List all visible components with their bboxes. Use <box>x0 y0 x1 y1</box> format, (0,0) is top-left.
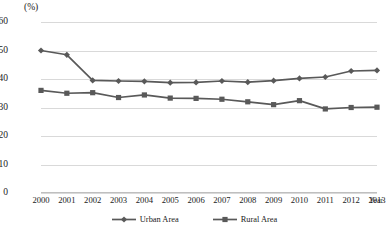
gridline-0 <box>41 193 377 194</box>
series-urban-area <box>38 47 380 85</box>
data-point-2012 <box>348 68 354 74</box>
y-axis-units-label: (%) <box>24 2 38 12</box>
legend-item-rural-area[interactable]: Rural Area <box>213 215 278 224</box>
data-point-2005 <box>168 96 173 101</box>
data-point-2008 <box>245 79 251 85</box>
data-point-2000 <box>38 88 43 93</box>
data-point-2004 <box>142 92 147 97</box>
x-axis-tick-2004: 2004 <box>136 196 153 205</box>
legend: Urban AreaRural Area <box>0 215 389 224</box>
x-axis-tick-2010: 2010 <box>291 196 308 205</box>
data-point-2010 <box>297 98 302 103</box>
line-chart: (%) 6050403020100 2000200120022003200420… <box>0 0 389 236</box>
data-point-2007 <box>219 78 225 84</box>
data-point-2013 <box>374 67 380 73</box>
legend-label: Rural Area <box>241 215 278 224</box>
data-point-2002 <box>90 90 95 95</box>
data-point-2001 <box>64 91 69 96</box>
legend-item-urban-area[interactable]: Urban Area <box>112 215 179 224</box>
data-point-2005 <box>167 80 173 86</box>
x-axis-tick-2000: 2000 <box>32 196 49 205</box>
series-layer <box>41 22 377 193</box>
x-axis-tick-2002: 2002 <box>84 196 101 205</box>
x-axis-tick-2005: 2005 <box>162 196 179 205</box>
legend-diamond-marker-icon <box>112 215 136 224</box>
data-point-2007 <box>219 97 224 102</box>
data-point-2010 <box>296 75 302 81</box>
x-axis-tick-2006: 2006 <box>187 196 204 205</box>
data-point-2011 <box>322 74 328 80</box>
x-axis-tick-2011: 2011 <box>317 196 334 205</box>
data-point-2009 <box>271 102 276 107</box>
legend-square-marker-icon <box>213 215 237 224</box>
plot-area <box>41 22 377 193</box>
data-point-2008 <box>245 99 250 104</box>
x-axis-tick-2009: 2009 <box>265 196 282 205</box>
data-point-2004 <box>141 78 147 84</box>
data-point-2009 <box>271 78 277 84</box>
data-point-2006 <box>193 96 198 101</box>
x-axis-title: Year <box>369 197 383 205</box>
data-point-2000 <box>38 47 44 53</box>
data-point-2003 <box>116 95 121 100</box>
data-point-2012 <box>349 105 354 110</box>
data-point-2006 <box>193 79 199 85</box>
x-axis-tick-2003: 2003 <box>110 196 127 205</box>
x-axis-tick-2008: 2008 <box>239 196 256 205</box>
series-rural-area <box>38 88 379 112</box>
data-point-2011 <box>323 106 328 111</box>
x-axis-tick-2007: 2007 <box>213 196 230 205</box>
x-axis-tick-2012: 2012 <box>343 196 360 205</box>
legend-label: Urban Area <box>140 215 179 224</box>
data-point-2003 <box>115 78 121 84</box>
data-point-2013 <box>374 105 379 110</box>
x-axis-tick-2001: 2001 <box>58 196 75 205</box>
